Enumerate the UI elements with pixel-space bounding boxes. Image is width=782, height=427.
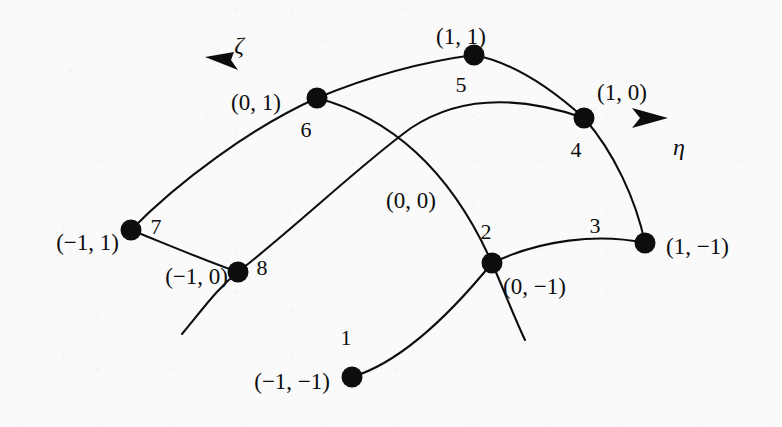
element-natural-coordinates-figure: 1(−1, −1)2(0, −1)3(1, −1)4(1, 0)5(1, 1)6… [0,0,782,427]
node-coord-1: (−1, −1) [254,370,330,393]
node-coord-5: (1, 1) [436,25,486,48]
node-marker-6 [307,88,328,109]
axis-zeta-curve [317,98,525,340]
node-coord-2: (0, −1) [503,275,566,298]
zeta-arrowhead [205,52,238,70]
node-number-2: 2 [481,221,492,243]
axis-eta-curve [182,102,584,334]
node-marker-4 [574,108,595,129]
node-number-1: 1 [341,327,352,349]
node-number-5: 5 [456,74,467,96]
origin-coord-label: (0, 0) [386,189,436,212]
node-marker-7 [121,220,142,241]
element-nodes-group [121,45,656,388]
node-coord-4: (1, 0) [597,81,647,104]
node-marker-8 [228,262,249,283]
node-coord-8: (−1, 0) [165,265,228,288]
node-marker-3 [635,233,656,254]
node-coord-6: (0, 1) [231,91,281,114]
eta-arrowhead [632,108,668,128]
node-marker-1 [342,367,363,388]
node-marker-2 [482,253,503,274]
element-edges-group [131,55,645,377]
node-number-7: 7 [151,216,162,238]
diagram-canvas [0,0,782,427]
zeta-axis-label: ζ [234,33,244,57]
node-number-8: 8 [257,257,268,279]
eta-axis-label: η [673,135,685,159]
node-number-6: 6 [301,119,312,141]
node-coord-7: (−1, 1) [56,231,119,254]
node-number-3: 3 [590,215,601,237]
edge-6-7-left [131,98,317,230]
node-number-4: 4 [571,139,582,161]
node-coord-3: (1, −1) [666,235,729,258]
